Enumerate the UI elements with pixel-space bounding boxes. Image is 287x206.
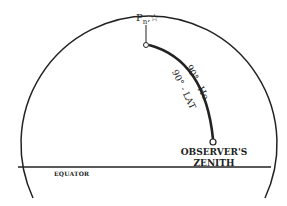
pole-marker-icon <box>144 43 149 48</box>
zenith-label: OBSERVER'S ZENITH <box>179 147 249 169</box>
pole-label: Pn,☆ <box>136 12 159 26</box>
star-icon: ☆ <box>150 12 159 23</box>
diagram-graphics <box>0 0 287 206</box>
celestial-diagram: Pn,☆ 90° - Ho 90° - LAT OBSERVER'S ZENIT… <box>0 0 287 206</box>
equator-label: EQUATOR <box>54 170 89 177</box>
zenith-marker-icon <box>210 139 216 145</box>
